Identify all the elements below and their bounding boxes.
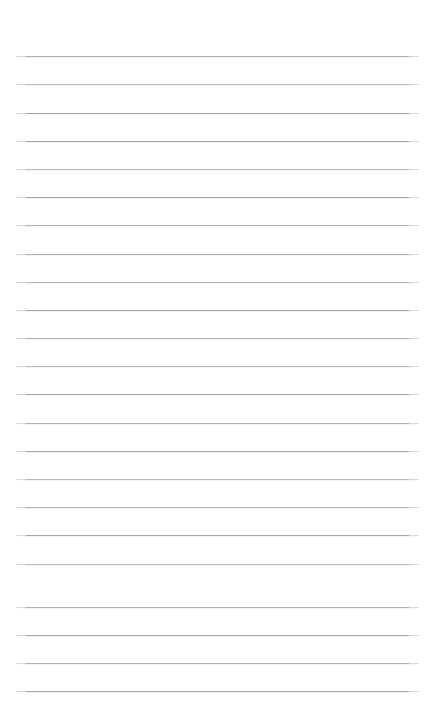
ruled-lines-group — [0, 0, 436, 721]
ruled-line — [22, 479, 413, 480]
ruled-line — [22, 535, 413, 536]
ruled-line — [22, 507, 413, 508]
ruled-line — [22, 254, 413, 255]
ruled-line — [22, 113, 413, 114]
ruled-line — [22, 225, 413, 226]
ruled-line — [22, 197, 413, 198]
ruled-line — [22, 423, 413, 424]
ruled-line — [22, 169, 413, 170]
ruled-line — [22, 366, 413, 367]
ruled-line — [22, 310, 413, 311]
ruled-line — [22, 394, 413, 395]
ruled-line — [22, 451, 413, 452]
lined-paper-sheet — [0, 0, 436, 721]
ruled-line — [22, 691, 413, 692]
ruled-line — [22, 663, 413, 664]
ruled-line — [22, 56, 413, 57]
ruled-line — [22, 564, 413, 565]
ruled-line — [22, 141, 413, 142]
ruled-line — [22, 607, 413, 608]
ruled-line — [22, 338, 413, 339]
ruled-line — [22, 635, 413, 636]
ruled-line — [22, 282, 413, 283]
ruled-line — [22, 84, 413, 85]
